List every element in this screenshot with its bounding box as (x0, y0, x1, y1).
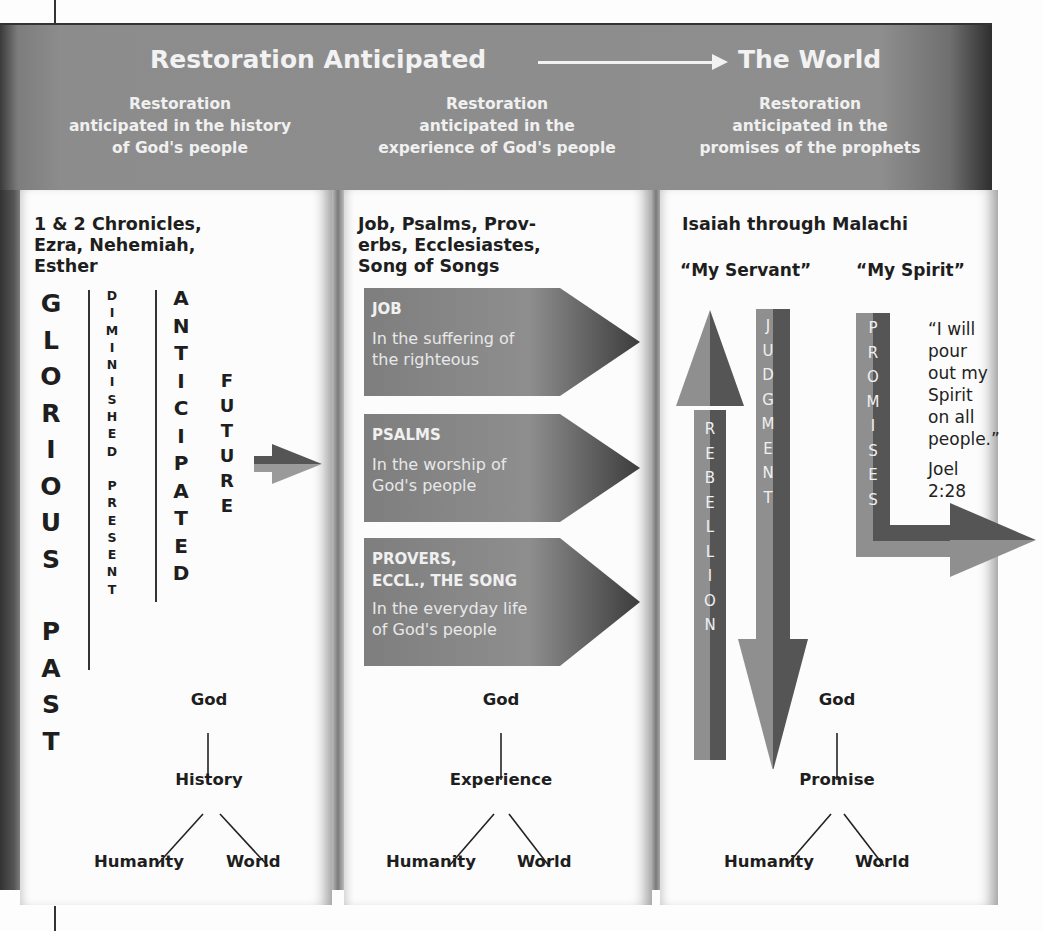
subtitle-line: experience of God's people (342, 137, 652, 159)
column-title: Job, Psalms, Prov- erbs, Ecclesiastes, S… (358, 214, 541, 277)
quote-line: pour (928, 340, 1000, 362)
label-line: ECCL., THE SONG (372, 570, 602, 592)
tree-right-node: World (855, 852, 910, 871)
title-line: Song of Songs (358, 256, 541, 277)
tree-top-node: God (89, 690, 329, 709)
right-arrow-icon (254, 444, 342, 494)
book-description: In the worship of God's people (372, 454, 602, 496)
subtitle-history: Restoration anticipated in the history o… (40, 93, 320, 159)
tree-right-node: World (226, 852, 281, 871)
desc-line: In the suffering of (372, 328, 602, 349)
desc-line: In the worship of (372, 454, 602, 475)
divider-line (88, 290, 90, 670)
header-title-right: The World (738, 45, 881, 74)
column-history: 1 & 2 Chronicles, Ezra, Nehemiah, Esther… (20, 190, 332, 905)
quote-line: Spirit (928, 384, 1000, 406)
promises-vertical-text: PROMISES (863, 316, 883, 512)
book-card-psalms: PSALMS In the worship of God's people (364, 414, 640, 522)
subtitle-promises: Restoration anticipated in the promises … (660, 93, 960, 159)
tree-lines (58, 690, 298, 910)
quote-line: people.” (928, 428, 1000, 450)
book-description: In the suffering of the righteous (372, 328, 602, 370)
tree-left-node: Humanity (724, 852, 814, 871)
vertical-word: FUTURE (216, 368, 238, 518)
quote-line: on all (928, 406, 1000, 428)
column-promises: Isaiah through Malachi “My Servant” “My … (660, 190, 998, 905)
tree-right-node: World (517, 852, 572, 871)
glorious-past-vertical: GLORIOUS PAST (36, 286, 66, 760)
margin-rule-top (54, 0, 56, 24)
title-line: Job, Psalms, Prov- (358, 214, 541, 235)
left-shadow-bar (0, 190, 22, 890)
rebellion-vertical-text: REBELLION (700, 417, 720, 638)
book-label: PROVERS, ECCL., THE SONG (372, 548, 602, 592)
title-line: Ezra, Nehemiah, (34, 235, 202, 256)
judgment-vertical-text: JUDGMENT (758, 314, 778, 510)
tree-lines (374, 690, 614, 910)
column-title: Isaiah through Malachi (682, 214, 908, 235)
tree-middle-node: History (89, 770, 329, 789)
book-card-wisdom: PROVERS, ECCL., THE SONG In the everyday… (364, 538, 640, 668)
header-title-row: Restoration Anticipated The World (0, 45, 992, 85)
scripture-reference: Joel 2:28 (928, 458, 1000, 502)
tree-top-node: God (381, 690, 621, 709)
subtitle-line: anticipated in the history (40, 115, 320, 137)
book-card-job: JOB In the suffering of the righteous (364, 288, 640, 396)
margin-rule-bottom (54, 906, 56, 931)
book-card-text: JOB In the suffering of the righteous (372, 298, 602, 370)
subhead-my-spirit: “My Spirit” (856, 260, 965, 280)
diminished-present-vertical: DIMINISHED PRESENT (104, 287, 120, 598)
title-line: 1 & 2 Chronicles, (34, 214, 202, 235)
title-line: erbs, Ecclesiastes, (358, 235, 541, 256)
column-separator (332, 190, 344, 890)
vertical-word: ANTICIPATED (168, 285, 194, 588)
scripture-quote: “I will pour out my Spirit on all people… (928, 318, 1000, 502)
book-card-text: PSALMS In the worship of God's people (372, 424, 602, 496)
book-label: PSALMS (372, 424, 602, 446)
column-experience: Job, Psalms, Prov- erbs, Ecclesiastes, S… (344, 190, 652, 905)
desc-line: God's people (372, 475, 602, 496)
quote-line: “I will (928, 318, 1000, 340)
desc-line: the righteous (372, 349, 602, 370)
title-line: Isaiah through Malachi (682, 214, 908, 235)
tree-left-node: Humanity (386, 852, 476, 871)
tree-lines (708, 690, 948, 910)
subtitle-experience: Restoration anticipated in the experienc… (342, 93, 652, 159)
subhead-my-servant: “My Servant” (680, 260, 811, 280)
book-label: JOB (372, 298, 602, 320)
book-card-text: PROVERS, ECCL., THE SONG In the everyday… (372, 548, 602, 640)
subtitle-line: anticipated in the (660, 115, 960, 137)
anticipated-vertical: ANTICIPATED (168, 285, 194, 588)
future-vertical: FUTURE (216, 368, 238, 518)
right-arrow-icon (538, 61, 716, 64)
header-title-left: Restoration Anticipated (150, 45, 486, 74)
relationship-tree: God History Humanity World (58, 690, 298, 910)
reference-line: 2:28 (928, 480, 1000, 502)
vertical-word: DIMINISHED PRESENT (104, 287, 120, 598)
tree-middle-node: Promise (717, 770, 957, 789)
subtitle-line: of God's people (40, 137, 320, 159)
label-line: PROVERS, (372, 548, 602, 570)
desc-line: of God's people (372, 619, 602, 640)
relationship-tree: God Promise Humanity World (708, 690, 948, 910)
subtitle-line: Restoration (660, 93, 960, 115)
subtitle-line: Restoration (40, 93, 320, 115)
tree-top-node: God (717, 690, 957, 709)
quote-line: out my (928, 362, 1000, 384)
tree-left-node: Humanity (94, 852, 184, 871)
desc-line: In the everyday life (372, 598, 602, 619)
divider-line (155, 290, 157, 602)
vertical-word: GLORIOUS PAST (36, 286, 66, 760)
tree-middle-node: Experience (381, 770, 621, 789)
header-banner: Restoration Anticipated The World Restor… (0, 23, 992, 195)
subtitle-line: promises of the prophets (660, 137, 960, 159)
subtitle-line: Restoration (342, 93, 652, 115)
relationship-tree: God Experience Humanity World (374, 690, 614, 910)
subtitle-line: anticipated in the (342, 115, 652, 137)
book-description: In the everyday life of God's people (372, 598, 602, 640)
reference-line: Joel (928, 458, 1000, 480)
title-line: Esther (34, 256, 202, 277)
column-title: 1 & 2 Chronicles, Ezra, Nehemiah, Esther (34, 214, 202, 277)
